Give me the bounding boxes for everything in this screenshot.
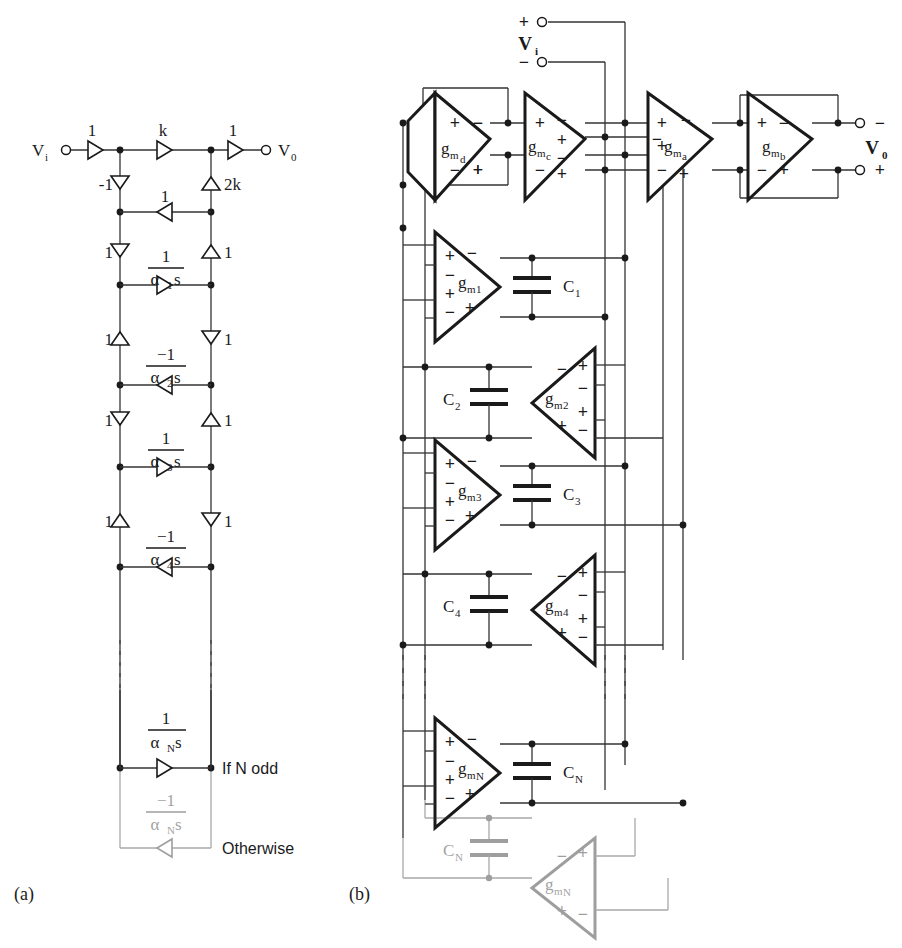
gma-out-minus: −	[657, 160, 667, 180]
gmc-out-minus: −	[535, 160, 545, 180]
ota-gmd: + − − + g m d + − − + g m d	[408, 93, 490, 200]
figure-canvas: 1 k 1 V i V 0	[0, 0, 902, 948]
gm1-out-minus: −	[445, 302, 455, 322]
gmN-out-plus: +	[465, 784, 475, 804]
gmc-label-m: m	[537, 147, 546, 159]
gm3-label-g: g	[458, 481, 467, 500]
gmN-mid-plus: +	[445, 770, 455, 790]
gmN-label-m: m	[467, 769, 476, 781]
gmb-in-minus: −	[779, 113, 789, 133]
gmN-label-g: g	[458, 759, 467, 778]
gm2-label-idx: 2	[563, 399, 569, 411]
gmN-in-minus: −	[467, 729, 477, 749]
output-port-sub: 0	[291, 151, 297, 163]
gmb-out-plus: +	[779, 160, 789, 180]
gm3-in-plus: +	[445, 454, 455, 474]
den-s-cross-alphaN-odd: s	[175, 733, 182, 752]
arrow-vb-right-5	[202, 513, 220, 526]
gmN-mid-minus: −	[445, 751, 455, 771]
ota-gmb: + − − + g m b	[748, 93, 812, 200]
c3-label: C	[563, 485, 574, 504]
gm1-out-plus: +	[465, 298, 475, 318]
arrow-output-gain	[228, 141, 243, 159]
den-alpha-cross-alphaN-otherwise: α	[151, 815, 160, 834]
gmd-label-m: m	[450, 149, 459, 161]
cN-ghost-label: C	[443, 841, 454, 860]
gm3-label-m: m	[467, 491, 476, 503]
label-mid-gain-k: k	[159, 121, 168, 140]
num-cross-alphaN-otherwise: −1	[157, 791, 175, 810]
input-port-label: V	[32, 141, 45, 160]
num-cross-alpha1: 1	[162, 247, 171, 266]
den-sub-cross-alphaN-odd: N	[167, 742, 175, 754]
gm1-mid-minus: −	[445, 265, 455, 285]
gm4-label-idx: 4	[563, 606, 569, 618]
label-vb-left-4: 1	[105, 411, 114, 430]
gmN-ghost-in-plus: +	[578, 843, 588, 863]
ota-gmc: + − + − − + g m c	[525, 93, 585, 200]
den-alpha-cross-alpha3: α	[151, 452, 160, 471]
den-alpha-cross-alpha1: α	[151, 270, 160, 289]
gm3-out-plus: +	[465, 506, 475, 526]
gm4-in-plus: +	[578, 563, 588, 583]
label-vb-right-1: 2k	[224, 175, 242, 194]
arrow-mid-gain-k	[157, 141, 172, 159]
gmd-sign-b: −	[473, 113, 483, 133]
gm3-mid-plus: +	[445, 492, 455, 512]
gm2-out-plus: +	[557, 416, 567, 436]
c2-sub: 2	[455, 400, 461, 412]
capacitor-c2: C 2	[443, 367, 508, 438]
vo-plus-sign: +	[875, 160, 885, 180]
gmc-in-plus: +	[535, 113, 545, 133]
arrow-vb-left-1	[111, 176, 129, 189]
panel-a-top-row: 1 k 1 V i V 0	[32, 121, 297, 163]
gm2-in-plus: +	[578, 356, 588, 376]
gm3-mid-minus: −	[445, 473, 455, 493]
vo-minus-terminal	[856, 119, 865, 128]
vi-sub: i	[535, 45, 538, 57]
label-output-gain: 1	[229, 121, 238, 140]
gm1-in-plus: +	[445, 246, 455, 266]
gmd-label-idx: d	[460, 153, 466, 165]
gmd-sign-d: +	[473, 160, 483, 180]
panel-b: + − V i − + V 0 + − − + g m d + − − + g	[349, 12, 888, 938]
gm2-out-minus: −	[578, 420, 588, 440]
gmN-in-plus: +	[445, 732, 455, 752]
input-terminal	[62, 146, 71, 155]
panel-b-caption: (b)	[349, 884, 370, 905]
arrow-vb-right-1	[202, 177, 220, 190]
gmb-in-plus: +	[757, 113, 767, 133]
gm2-in-minus: −	[557, 359, 567, 379]
vi-plus-sign: +	[519, 12, 529, 32]
den-alpha-cross-alpha2: α	[151, 368, 160, 387]
gmb-label-idx: b	[780, 150, 786, 162]
den-alpha-cross-alphaN-odd: α	[151, 733, 160, 752]
gmd-sign-a: +	[450, 113, 460, 133]
den-alpha-cross-alpha4: α	[151, 550, 160, 569]
gmd-label-g: g	[441, 139, 450, 158]
gmc-label-g: g	[528, 137, 537, 156]
gm4-label-g: g	[545, 596, 554, 615]
label-vb-left-3: 1	[105, 330, 114, 349]
if-n-odd-note: If N odd	[222, 760, 278, 777]
gmN-ghost-label-idx: N	[563, 886, 571, 898]
ota-gmN-stage: + − − + − + g m N C	[403, 718, 686, 828]
den-s-cross-alpha4: s	[174, 550, 181, 569]
gm4-mid-minus: −	[578, 585, 588, 605]
gmc-in-minus: −	[557, 110, 567, 130]
den-s-cross-alphaN-otherwise: s	[175, 815, 182, 834]
arrow-vb-right-4	[202, 413, 220, 426]
gmN-ghost-out-minus: −	[578, 904, 588, 924]
gmc-out-plus: +	[557, 164, 567, 184]
branch-cross-unity: 1	[120, 187, 211, 221]
branch-cross-alpha4: −1 α 4 s	[120, 527, 211, 576]
gma-label-g: g	[664, 137, 673, 156]
branch-cross-alphaN-otherwise: −1 α N s	[120, 768, 211, 857]
cN-ghost-sub: N	[455, 851, 463, 863]
label-vb-right-5: 1	[224, 512, 233, 531]
den-sub-cross-alpha4: 4	[167, 559, 173, 571]
gmN-ghost-label-g: g	[545, 875, 554, 894]
input-port-sub: i	[45, 151, 48, 163]
c1-sub: 1	[575, 287, 581, 299]
vi-minus-sign: −	[519, 52, 529, 72]
